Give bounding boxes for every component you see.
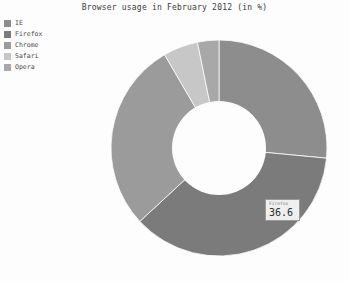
legend-item-label: Opera [15,63,35,72]
chart-canvas: Browser usage in February 2012 (in %) IE… [0,0,349,281]
tooltip-value: 36.6 [269,207,297,218]
legend-item-firefox[interactable]: Firefox [4,30,42,39]
legend-item-label: IE [15,19,23,28]
donut-hole [172,101,266,195]
legend-item-label: Chrome [15,41,38,50]
donut-chart [109,38,329,258]
legend-swatch-icon [4,31,11,38]
legend-item-safari[interactable]: Safari [4,52,42,61]
data-tooltip: Firefox 36.6 [265,199,300,221]
chart-legend: IEFirefoxChromeSafariOpera [4,19,42,72]
legend-item-label: Safari [15,52,38,61]
legend-item-label: Firefox [15,30,42,39]
legend-item-chrome[interactable]: Chrome [4,41,42,50]
donut-svg [109,38,329,258]
legend-swatch-icon [4,64,11,71]
legend-item-opera[interactable]: Opera [4,63,42,72]
legend-item-ie[interactable]: IE [4,19,42,28]
legend-swatch-icon [4,53,11,60]
legend-swatch-icon [4,20,11,27]
chart-title: Browser usage in February 2012 (in %) [0,3,349,12]
legend-swatch-icon [4,42,11,49]
